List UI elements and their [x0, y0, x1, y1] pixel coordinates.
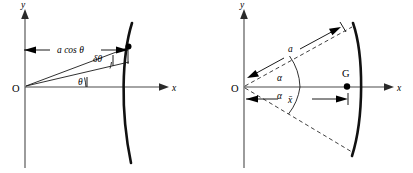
right-origin-label: O: [231, 83, 239, 94]
right-centroid-label: G: [342, 68, 350, 79]
right-x-axis-label: x: [396, 83, 402, 93]
left-delta-theta-arc: [110, 62, 112, 69]
right-y-axis-label: y: [239, 0, 245, 10]
left-y-axis-label: y: [20, 0, 26, 10]
right-radius-lower-dashed: [245, 88, 352, 152]
left-theta-arc: [85, 78, 87, 88]
left-origin-label: O: [12, 83, 20, 94]
right-alpha-upper-label: α: [277, 73, 283, 83]
right-x-axis: [244, 83, 394, 91]
left-delta-theta-label: δθ: [93, 54, 102, 64]
right-arc-curve: [352, 23, 361, 156]
left-x-axis: [25, 83, 169, 91]
right-panel: y x O a α α x̄ G: [231, 0, 402, 168]
right-centroid-dot: [344, 83, 350, 89]
left-theta-label: θ: [78, 77, 83, 87]
right-x-bar-label: x̄: [287, 95, 293, 105]
figure-svg: y x O a cos θ δθ θ: [0, 0, 413, 173]
left-x-axis-label: x: [171, 83, 177, 93]
left-arc-point-dot: [126, 44, 132, 50]
figure-container: y x O a cos θ δθ θ: [0, 0, 413, 173]
left-y-axis: [21, 9, 29, 168]
right-alpha-lower-label: α: [277, 91, 283, 101]
right-radius-a-label: a: [288, 44, 293, 54]
left-panel: y x O a cos θ δθ θ: [12, 0, 177, 168]
left-a-cos-theta-label: a cos θ: [57, 45, 84, 55]
